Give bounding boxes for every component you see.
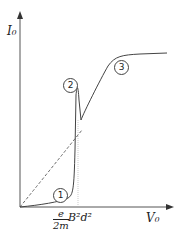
fraction-denominator: 2m — [53, 220, 69, 231]
x-tick-fraction: e 2m — [53, 208, 69, 231]
y-axis-label: I₀ — [7, 24, 17, 38]
dashed-curve — [20, 130, 82, 207]
x-tick-label: B²d² — [68, 211, 92, 224]
fraction-numerator: e — [53, 208, 69, 220]
marker-3: 3 — [114, 60, 129, 75]
marker-1: 1 — [53, 188, 68, 203]
x-axis-label: V₀ — [146, 211, 159, 225]
current-curve — [20, 53, 167, 207]
diagram-canvas — [0, 0, 183, 247]
marker-2: 2 — [63, 78, 78, 93]
